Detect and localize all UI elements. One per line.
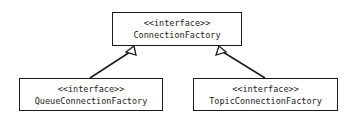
class-box-connection-factory: <<interface>> ConnectionFactory [112, 12, 242, 46]
class-name: TopicConnectionFactory [209, 95, 322, 107]
uml-diagram: <<interface>> ConnectionFactory <<interf… [0, 0, 358, 122]
class-box-queue-connection-factory: <<interface>> QueueConnectionFactory [19, 78, 163, 111]
stereotype-label: <<interface>> [232, 83, 299, 95]
class-name: ConnectionFactory [134, 29, 221, 41]
class-name: QueueConnectionFactory [35, 95, 148, 107]
stereotype-label: <<interface>> [58, 83, 125, 95]
stereotype-label: <<interface>> [144, 17, 211, 29]
generalization-topic-to-connection [216, 46, 265, 78]
class-box-topic-connection-factory: <<interface>> TopicConnectionFactory [193, 78, 338, 111]
generalization-queue-to-connection [90, 46, 136, 78]
